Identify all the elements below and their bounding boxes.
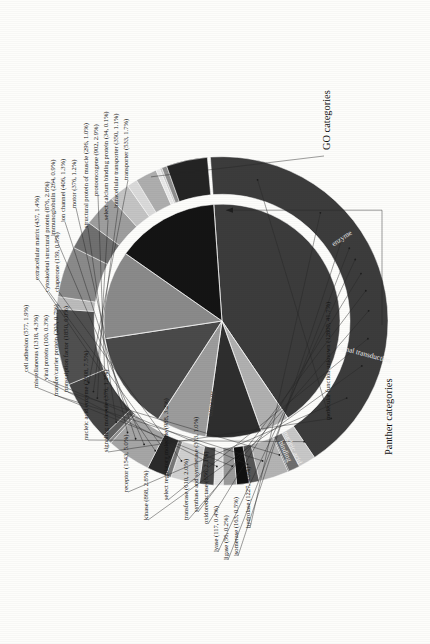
label-cell-adhesion: cell adhesion (577, 1.9%) [22, 305, 30, 372]
figure-canvas: chaperone (159, 0.5%)cytoskeletal struct… [0, 0, 430, 644]
label-transporter: transporter (533, 1.7%) [122, 119, 130, 180]
leader-tip-cell-adhesion [216, 466, 218, 468]
leader-tip-extracellular-matrix [154, 450, 156, 452]
leader-tip-motor [127, 432, 129, 434]
pie-chart-figure: chaperone (159, 0.5%)cytoskeletal struct… [0, 0, 430, 644]
label-ligase: ligase (56, 0.2%) [222, 515, 230, 560]
leader-tip-select-calcium-binding [96, 397, 98, 399]
leader-tip-molecular-function-unknown [257, 179, 259, 181]
label-extracellular-matrix: extracellular matrix (437, 1.4%) [33, 196, 41, 280]
label-oxidoreductase: oxidoreductase (656, 2.1%) [202, 452, 210, 524]
leader-tip-intracellular-transporter [93, 391, 95, 393]
label-select-calcium-binding: select calcium binding protein (34, 0.1%… [102, 111, 110, 220]
leader-tip-oxidoreductase [360, 273, 362, 275]
leader-tip-viral-protein [247, 463, 249, 465]
annotation-go-categories: GO categories [321, 90, 332, 150]
label-chaperone: chaperone (159, 0.5%) [53, 232, 61, 292]
label-molecular-function-unknown: molecular function unknown (12809, 41.7%… [324, 302, 332, 420]
label-viral-protein: viral protein (100, 0.3%) [42, 315, 50, 380]
leader-tip-receptor [346, 397, 348, 399]
leader-tip-transferase [368, 310, 370, 312]
label-immunoglobulin: immunoglobulin (264, 0.9%) [49, 160, 57, 236]
leader-tip-hydrolase [319, 212, 321, 214]
label-protooncogene: protooncogene (902, 2.9%) [92, 124, 100, 196]
leader-tip-ligase [348, 247, 350, 249]
label-kinase: kinase (868, 2.8%) [142, 471, 150, 520]
label-transferase: transferase (610, 2.0%) [182, 459, 190, 520]
leader-tip-ion-channel [135, 438, 137, 440]
leader-tip-structural-protein-muscle [115, 421, 117, 423]
leader-tip-lyase [354, 259, 356, 261]
label-miscellaneous: miscellaneous (1318, 4.3%) [32, 315, 40, 388]
label-hydrolase: hydrolase (1227, 4.0%) [244, 467, 252, 528]
label-ion-channel: ion channel (406, 1.3%) [59, 159, 67, 222]
leader-tip-kinase [361, 365, 363, 367]
label-synthase-synthetase: synthase and synthetase (313, 1.0%) [192, 417, 200, 512]
leader-tip-transfer-carrier-protein [262, 460, 264, 462]
leader-tip-transcription-factor [279, 454, 281, 456]
label-signaling-molecule: signaling molecule (376, 1.2%) [102, 370, 110, 452]
label-structural-protein-muscle: structural protein of muscle (296, 1.0%) [82, 123, 90, 228]
leader-tip-select-regulatory-molecule [367, 338, 369, 340]
label-isomerase: isomerase (163, 0.5%) [232, 497, 240, 556]
label-receptor: receptor (1543, 5.0%) [122, 435, 130, 492]
label-motor: motor (376, 1.2%) [70, 160, 78, 208]
label-nucleic-acid-enzyme: nucleic acid enzyme (2308, 7.5%) [82, 351, 90, 440]
leader-tip-synthase-synthetase [365, 290, 367, 292]
annotation-panther-categories: Panther categories [383, 379, 394, 455]
label-transfer-carrier-protein: transfer/carrier protein (203, 0.7%) [52, 304, 60, 396]
leader-tip-immunoglobulin [143, 444, 145, 446]
label-intracellular-transporter: intracellular transporter (350, 1.1%) [112, 114, 120, 208]
leader-tip-nucleic-acid-enzyme [303, 441, 305, 443]
label-select-regulatory-molecule: select regulatory molecule (988, 3.2%) [162, 398, 170, 500]
label-lyase: lyase (117, 0.4%) [212, 506, 220, 552]
label-transcription-factor: transcription factor (1850, 6.0%) [62, 306, 70, 392]
